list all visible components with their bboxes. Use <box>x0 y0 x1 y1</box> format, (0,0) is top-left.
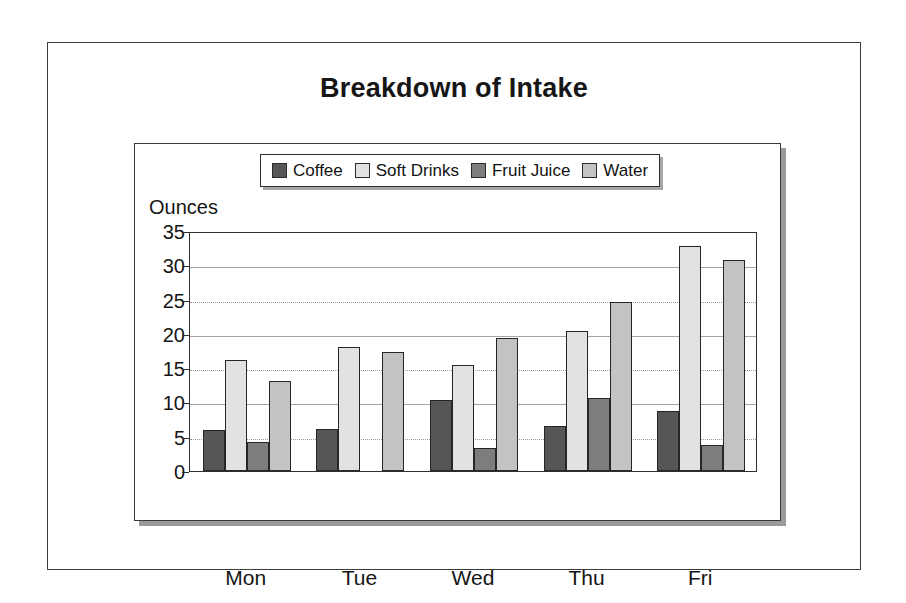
y-tick-label: 25 <box>137 291 185 311</box>
y-tick-label: 15 <box>137 359 185 379</box>
bar-thu-soft-drinks[interactable] <box>566 331 588 471</box>
bar-mon-fruit-juice[interactable] <box>247 442 269 471</box>
legend-label: Water <box>603 161 648 181</box>
bar-group-wed <box>417 233 531 471</box>
bar-thu-water[interactable] <box>610 302 632 471</box>
bar-tue-water[interactable] <box>382 352 404 471</box>
legend-swatch-icon <box>582 163 597 178</box>
y-tick-mark <box>182 369 189 370</box>
x-tick-label-thu: Thu <box>569 566 605 590</box>
y-tick-label: 0 <box>137 462 185 482</box>
bar-group-tue <box>304 233 418 471</box>
legend-label: Fruit Juice <box>492 161 570 181</box>
bar-wed-coffee[interactable] <box>430 400 452 471</box>
legend-label: Coffee <box>293 161 343 181</box>
y-axis-title: Ounces <box>149 196 218 219</box>
legend-swatch-icon <box>272 163 287 178</box>
y-tick-label: 35 <box>137 222 185 242</box>
page-title: Breakdown of Intake <box>48 73 860 104</box>
x-tick-label-fri: Fri <box>688 566 713 590</box>
legend-entry-coffee[interactable]: Coffee <box>272 161 343 181</box>
bar-thu-fruit-juice[interactable] <box>588 398 610 471</box>
bar-mon-coffee[interactable] <box>203 430 225 471</box>
y-tick-label: 20 <box>137 325 185 345</box>
bar-fri-fruit-juice[interactable] <box>701 445 723 471</box>
y-tick-mark <box>182 266 189 267</box>
legend-entry-soft-drinks[interactable]: Soft Drinks <box>355 161 459 181</box>
x-tick-label-wed: Wed <box>452 566 495 590</box>
legend-entry-fruit-juice[interactable]: Fruit Juice <box>471 161 570 181</box>
y-tick-mark <box>182 335 189 336</box>
bar-fri-water[interactable] <box>723 260 745 471</box>
bar-wed-soft-drinks[interactable] <box>452 365 474 471</box>
plot-area <box>189 232 757 472</box>
bar-thu-coffee[interactable] <box>544 426 566 471</box>
bar-wed-fruit-juice[interactable] <box>474 448 496 471</box>
chart-legend: CoffeeSoft DrinksFruit JuiceWater <box>260 154 660 187</box>
plot-wrapper: 05101520253035 MonTueWedThuFri <box>189 232 757 472</box>
legend-swatch-icon <box>355 163 370 178</box>
x-tick-label-mon: Mon <box>225 566 266 590</box>
legend-entry-water[interactable]: Water <box>582 161 648 181</box>
bars-layer <box>190 233 756 471</box>
legend-label: Soft Drinks <box>376 161 459 181</box>
bar-tue-coffee[interactable] <box>316 429 338 472</box>
y-tick-label: 30 <box>137 256 185 276</box>
bar-mon-soft-drinks[interactable] <box>225 360 247 471</box>
outer-slide-frame: Breakdown of Intake CoffeeSoft DrinksFru… <box>47 42 861 570</box>
bar-tue-soft-drinks[interactable] <box>338 347 360 471</box>
bar-wed-water[interactable] <box>496 338 518 471</box>
x-tick-label-tue: Tue <box>342 566 377 590</box>
y-tick-mark <box>182 472 189 473</box>
bar-group-thu <box>531 233 645 471</box>
chart-panel: CoffeeSoft DrinksFruit JuiceWater Ounces… <box>134 143 781 521</box>
y-tick-mark <box>182 301 189 302</box>
legend-swatch-icon <box>471 163 486 178</box>
y-tick-mark <box>182 403 189 404</box>
bar-mon-water[interactable] <box>269 381 291 472</box>
bar-fri-soft-drinks[interactable] <box>679 246 701 471</box>
y-tick-mark <box>182 438 189 439</box>
bar-fri-coffee[interactable] <box>657 411 679 471</box>
bar-group-fri <box>644 233 757 471</box>
y-tick-label: 10 <box>137 393 185 413</box>
bar-group-mon <box>190 233 304 471</box>
y-tick-label: 5 <box>137 428 185 448</box>
y-tick-mark <box>182 232 189 233</box>
